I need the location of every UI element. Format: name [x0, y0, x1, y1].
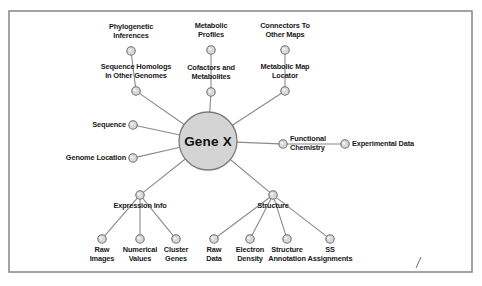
- node-circle-phylogenetic-inferences[interactable]: [127, 47, 135, 55]
- node-sequence[interactable]: [129, 121, 137, 129]
- node-circle-raw-images[interactable]: [98, 235, 106, 243]
- node-highlight-metabolic-map-locator: [282, 88, 285, 91]
- node-circle-sequence[interactable]: [129, 121, 137, 129]
- node-highlight-genome-location: [130, 155, 133, 158]
- node-highlight-connectors-to-other-maps: [282, 47, 285, 50]
- center-node-label: Gene X: [184, 134, 232, 149]
- node-connectors-to-other-maps[interactable]: [281, 46, 289, 54]
- node-circle-structure-annotation[interactable]: [283, 235, 291, 243]
- node-highlight-structure: [270, 192, 273, 195]
- edge-center-to-genome-location: [137, 147, 180, 157]
- edge-center-to-sequence: [137, 126, 180, 135]
- node-circle-functional-chemistry[interactable]: [279, 140, 287, 148]
- node-numerical-values[interactable]: [136, 235, 144, 243]
- node-highlight-sequence-homologs: [133, 88, 136, 91]
- node-raw-images[interactable]: [98, 235, 106, 243]
- node-cluster-genes[interactable]: [172, 235, 180, 243]
- node-metabolic-profiles[interactable]: [207, 46, 215, 54]
- node-circle-sequence-homologs[interactable]: [132, 87, 140, 95]
- node-circle-metabolic-map-locator[interactable]: [281, 87, 289, 95]
- node-phylogenetic-inferences[interactable]: [127, 47, 135, 55]
- edge-center-to-structure: [230, 159, 270, 192]
- node-circle-expression-info[interactable]: [136, 191, 144, 199]
- edge-center-to-expression-info: [143, 159, 186, 193]
- node-ss-assignments[interactable]: [326, 235, 334, 243]
- node-sequence-homologs[interactable]: [132, 87, 140, 95]
- node-circle-raw-data[interactable]: [210, 235, 218, 243]
- figure-border: [9, 11, 472, 272]
- node-circle-structure[interactable]: [269, 191, 277, 199]
- node-circle-connectors-to-other-maps[interactable]: [281, 46, 289, 54]
- node-highlight-ss-assignments: [327, 236, 330, 239]
- node-cofactors-and-metabolites[interactable]: [207, 88, 215, 96]
- node-highlight-experimental-data: [342, 141, 345, 144]
- edge-center-to-cofactors-and-metabolites: [210, 96, 211, 113]
- edge-center-to-sequence-homologs: [139, 93, 184, 125]
- node-circle-cluster-genes[interactable]: [172, 235, 180, 243]
- node-highlight-cofactors-and-metabolites: [208, 89, 211, 92]
- node-highlight-raw-images: [99, 236, 102, 239]
- node-highlight-structure-annotation: [284, 236, 287, 239]
- corner-slash-mark: [416, 257, 421, 268]
- node-highlight-metabolic-profiles: [208, 47, 211, 50]
- edge-center-to-functional-chemistry: [237, 142, 280, 144]
- node-circle-ss-assignments[interactable]: [326, 235, 334, 243]
- node-highlight-raw-data: [211, 236, 214, 239]
- node-genome-location[interactable]: [129, 154, 137, 162]
- node-highlight-expression-info: [137, 192, 140, 195]
- node-metabolic-map-locator[interactable]: [281, 87, 289, 95]
- corner-mark: [416, 257, 421, 268]
- node-highlight-numerical-values: [137, 236, 140, 239]
- node-experimental-data[interactable]: [341, 140, 349, 148]
- edge-expression-info-to-raw-images: [104, 198, 137, 236]
- node-highlight-cluster-genes: [173, 236, 176, 239]
- node-circle-experimental-data[interactable]: [341, 140, 349, 148]
- node-raw-data[interactable]: [210, 235, 218, 243]
- edge-structure-to-ss-assignments: [276, 197, 327, 236]
- node-highlight-electron-density: [247, 236, 250, 239]
- figure-border-rect: [9, 11, 472, 272]
- diagram-canvas: Phylogenetic InferencesMetabolic Profile…: [0, 0, 482, 286]
- edge-center-to-metabolic-map-locator: [232, 93, 282, 125]
- node-expression-info[interactable]: [136, 191, 144, 199]
- node-circle-numerical-values[interactable]: [136, 235, 144, 243]
- node-circle-genome-location[interactable]: [129, 154, 137, 162]
- edge-expression-info-to-cluster-genes: [142, 198, 173, 236]
- node-structure-annotation[interactable]: [283, 235, 291, 243]
- node-circle-metabolic-profiles[interactable]: [207, 46, 215, 54]
- node-structure[interactable]: [269, 191, 277, 199]
- diagram-svg: [0, 0, 482, 286]
- node-functional-chemistry[interactable]: [279, 140, 287, 148]
- node-circle-electron-density[interactable]: [246, 235, 254, 243]
- edge-sequence-homologs-to-phylogenetic-inferences: [131, 55, 135, 87]
- node-highlight-functional-chemistry: [280, 141, 283, 144]
- node-highlight-sequence: [130, 122, 133, 125]
- node-circle-cofactors-and-metabolites[interactable]: [207, 88, 215, 96]
- node-highlight-phylogenetic-inferences: [128, 48, 131, 51]
- node-electron-density[interactable]: [246, 235, 254, 243]
